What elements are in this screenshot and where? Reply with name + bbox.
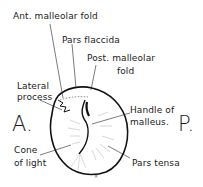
label-pars-tensa: Pars tensa (132, 158, 180, 168)
tympanic-membrane-diagram: ✕ Ant. malleolar fold Pars flaccida Post… (0, 0, 203, 187)
label-pars-flaccida: Pars flaccida (62, 35, 120, 45)
label-anterior: A. (12, 112, 33, 136)
label-lateral-process-2: process (17, 92, 52, 102)
svg-text:✕: ✕ (94, 173, 98, 179)
label-handle-of-malleus-2: malleus. (130, 117, 169, 127)
label-lateral-process-1: Lateral (17, 81, 49, 91)
label-cone-of-light-2: of light (14, 158, 46, 168)
label-posterior: P. (178, 112, 194, 136)
label-ant-malleolar-fold: Ant. malleolar fold (13, 11, 98, 21)
label-cone-of-light-1: Cone (14, 145, 37, 155)
cone-of-light (70, 154, 86, 170)
label-post-malleolar-fold-2: fold (117, 66, 134, 76)
drum-outline (50, 87, 127, 175)
label-handle-of-malleus-1: Handle of (130, 105, 174, 115)
label-post-malleolar-fold-1: Post. malleolar (87, 53, 155, 63)
